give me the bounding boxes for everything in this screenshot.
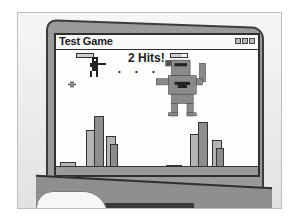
enemy-monster-icon bbox=[156, 57, 218, 119]
laptop-keyboard bbox=[104, 203, 194, 209]
projectile-dots: • • • bbox=[118, 67, 161, 76]
minimize-icon[interactable] bbox=[235, 38, 241, 44]
window-titlebar: Test Game bbox=[56, 35, 258, 50]
maximize-icon[interactable] bbox=[242, 38, 248, 44]
ground-strip bbox=[56, 166, 258, 175]
illustration-frame: Test Game 2 Hits! • • • bbox=[17, 12, 282, 209]
pickup-blob-icon bbox=[68, 81, 76, 88]
game-window: Test Game 2 Hits! • • • bbox=[54, 33, 260, 177]
window-title: Test Game bbox=[59, 35, 113, 47]
window-controls bbox=[235, 38, 255, 44]
player-soldier-icon bbox=[86, 57, 108, 79]
close-icon[interactable] bbox=[249, 38, 255, 44]
